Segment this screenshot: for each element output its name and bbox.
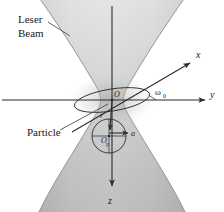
- beam-waist-sublabel: 0: [163, 93, 166, 99]
- laser-beam-label-line2: Beam: [18, 27, 44, 39]
- laser-beam-label-line1: Leser: [18, 13, 43, 25]
- optical-trap-diagram: Leser Beam Particle x y z O O p r a ω 0: [0, 0, 224, 212]
- axis-y-label: y: [209, 89, 215, 100]
- origin-label: O: [114, 90, 120, 99]
- particle-label: Particle: [27, 126, 61, 138]
- figure-container: Leser Beam Particle x y z O O p r a ω 0: [0, 0, 224, 212]
- particle-radius-label: a: [131, 129, 135, 138]
- beam-waist-label: ω: [155, 87, 161, 97]
- axis-x-label: x: [195, 49, 201, 60]
- axis-z-label: z: [107, 195, 112, 206]
- particle-center-sublabel: p: [106, 141, 109, 147]
- particle-center-point: [108, 135, 110, 137]
